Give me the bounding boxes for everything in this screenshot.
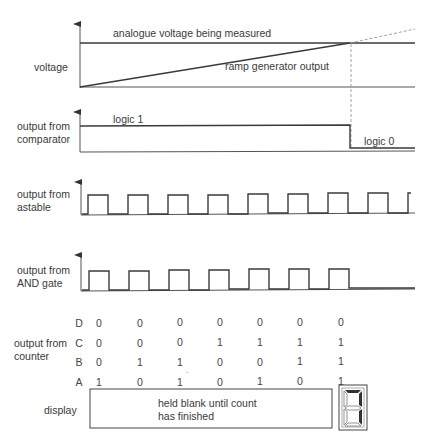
counter-cell: 0: [137, 376, 143, 388]
counter-cell: 0: [297, 316, 303, 328]
counter-cell: 1: [96, 376, 102, 388]
counter-bit-label: C: [75, 337, 83, 349]
counter-cell: 1: [257, 336, 263, 348]
ramp-annotation: ramp generator output: [225, 60, 329, 72]
comparator-label-2: comparator: [17, 133, 71, 145]
counter-cell: 0: [257, 316, 263, 328]
counter-bit-label: B: [75, 356, 82, 368]
display-panel: display held blank until count has finis…: [44, 385, 367, 430]
counter-cell: 1: [177, 376, 183, 388]
and-gate-label-2: AND gate: [17, 277, 63, 289]
counter-cell: 1: [297, 355, 303, 367]
counter-label-2: counter: [14, 350, 50, 362]
counter-cell: 0: [217, 356, 223, 368]
comparator-label-1: output from: [17, 120, 70, 132]
display-text-1: held blank until count: [158, 397, 257, 409]
comparator-panel: output from comparator logic 1 logic 0: [17, 112, 415, 152]
counter-cell: 1: [297, 336, 303, 348]
display-text-2: has finished: [158, 410, 214, 422]
counter-cell: 1: [137, 356, 143, 368]
counter-cell: 1: [217, 336, 223, 348]
ramp-continuation-dashed: [350, 29, 415, 43]
counter-cell: 1: [338, 355, 344, 367]
stray-mark: `: [186, 370, 189, 379]
counter-cell: 0: [96, 356, 102, 368]
astable-waveform: [82, 193, 411, 214]
counter-bit-label: D: [75, 317, 83, 329]
counter-cell: 0: [96, 317, 102, 329]
logic-1-annotation: logic 1: [113, 113, 144, 125]
counter-cell: 0: [177, 316, 183, 328]
voltage-label: voltage: [34, 61, 68, 73]
counter-cell: 1: [338, 336, 344, 348]
counter-cell: 1: [177, 356, 183, 368]
and-gate-panel: output from AND gate: [17, 255, 415, 291]
counter-cell: 0: [177, 336, 183, 348]
logic-0-annotation: logic 0: [364, 135, 395, 147]
counter-cell: 0: [217, 376, 223, 388]
counter-cell: 0: [137, 337, 143, 349]
timing-diagram: voltage analogue voltage being measured …: [0, 0, 428, 444]
counter-cell: 0: [297, 375, 303, 387]
astable-label-1: output from: [17, 188, 70, 200]
counter-cell: 1: [257, 375, 263, 387]
voltage-panel: voltage analogue voltage being measured …: [34, 24, 415, 88]
astable-panel: output from astable: [17, 182, 415, 215]
counter-cell: 0: [257, 356, 263, 368]
and-gate-waveform: [82, 269, 415, 290]
counter-cell: 0: [96, 337, 102, 349]
counter-bit-label: A: [75, 376, 82, 388]
display-label: display: [44, 404, 77, 416]
measured-voltage-annotation: analogue voltage being measured: [113, 27, 271, 39]
counter-panel: output from counter D 0 0 0 0 0 0 0 C 0 …: [14, 316, 344, 388]
counter-label-1: output from: [14, 337, 67, 349]
seven-segment-display: [339, 385, 367, 430]
counter-cell: 0: [217, 316, 223, 328]
comparator-x-axis: [80, 151, 415, 152]
astable-label-2: astable: [17, 201, 51, 213]
counter-cell: 0: [338, 316, 344, 328]
counter-cell: 0: [137, 317, 143, 329]
and-gate-label-1: output from: [17, 264, 70, 276]
